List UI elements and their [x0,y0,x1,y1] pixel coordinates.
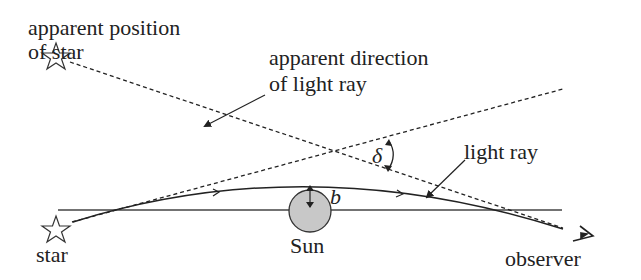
observer-eye-icon [573,226,593,241]
apparent-position-label-line1: apparent position [28,16,180,40]
b-arrow-top-icon [306,185,314,191]
apparent-direction-label-line1: apparent direction [269,46,428,70]
b-label: b [330,185,341,209]
apparent-direction-pointer [205,95,265,126]
delta-label: δ [372,144,382,168]
light-ray-label: light ray [464,140,538,164]
star-icon [42,216,70,242]
star-label: star [36,243,68,267]
observer-label: observer [505,247,581,271]
delta-arrow-top-icon [385,139,392,146]
apparent-direction-label-line2: of light ray [269,72,367,96]
sun-label: Sun [290,234,324,258]
light-ray-pointer [427,160,465,197]
apparent-position-label-line2: of star [28,40,84,64]
ray-direction-arrow-right [396,190,403,197]
